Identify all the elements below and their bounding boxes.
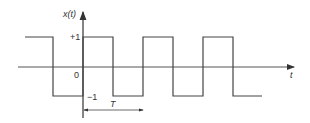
diagram-graphics [0, 0, 310, 123]
y-axis-label: x(t) [63, 9, 76, 19]
high-level-label: +1 [70, 32, 80, 42]
square-wave-diagram: x(t) +1 0 −1 T t [0, 0, 310, 123]
origin-label: 0 [74, 70, 79, 80]
low-level-label: −1 [87, 92, 97, 102]
x-axis-label: t [290, 70, 293, 80]
period-label: T [110, 99, 116, 109]
